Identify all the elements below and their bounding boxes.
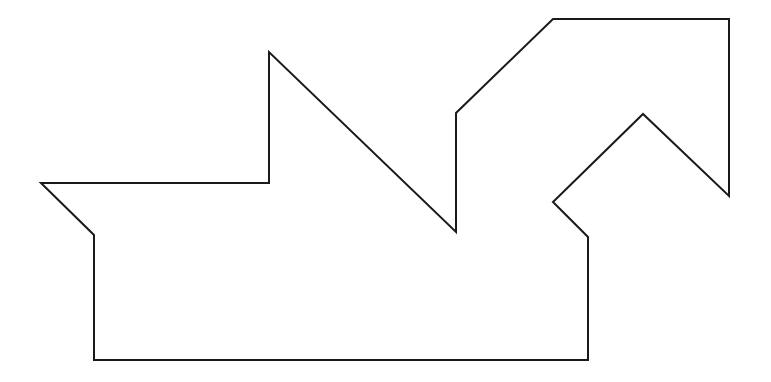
diagram-canvas <box>0 0 771 382</box>
tangram-figure <box>0 0 771 382</box>
polygon-outline <box>41 19 729 360</box>
